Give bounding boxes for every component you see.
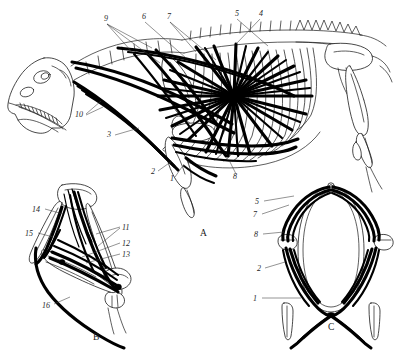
callout-label-6-a: 6 (142, 12, 146, 21)
callout-label-8-c: 8 (254, 230, 258, 239)
callout-label-11-b: 11 (122, 223, 129, 232)
callout-label-5-a: 5 (235, 9, 239, 18)
callout-label-10-a: 10 (75, 110, 83, 119)
callout-label-7-c: 7 (253, 210, 258, 219)
callout-label-16-b: 16 (42, 301, 50, 310)
panel-label-a: A (200, 228, 207, 238)
pelvis-and-hindlimb (325, 43, 392, 192)
panel-c-group: 5 7 8 2 1 C (253, 183, 393, 348)
callout-label-1-c: 1 (253, 294, 257, 303)
panel-b-group: 14 15 11 12 13 16 B (25, 184, 131, 348)
skull-outline (8, 58, 74, 134)
callout-label-14-b: 14 (32, 205, 40, 214)
panel-label-b: B (93, 332, 99, 342)
callout-label-13-b: 13 (122, 250, 130, 259)
callout-label-2-a: 2 (151, 167, 155, 176)
figure-svg-canvas: 9 6 7 5 4 10 3 2 1 8 A (0, 0, 412, 352)
panel-label-c: C (328, 322, 334, 332)
callout-label-7-a: 7 (167, 12, 172, 21)
callout-label-15-b: 15 (25, 229, 33, 238)
callout-label-5-c: 5 (255, 197, 259, 206)
callout-label-2-c: 2 (257, 264, 261, 273)
callout-label-8-a: 8 (233, 172, 237, 181)
callout-label-1-a: 1 (170, 174, 174, 183)
anatomical-figure-plate: 9 6 7 5 4 10 3 2 1 8 A (0, 0, 412, 352)
callout-label-9-a: 9 (104, 14, 108, 23)
muscle-lines-panel-a (72, 44, 312, 183)
forearm-bones (181, 188, 195, 218)
callout-label-12-b: 12 (122, 239, 130, 248)
callout-label-4-a: 4 (259, 9, 263, 18)
callout-label-3-a: 3 (106, 130, 111, 139)
